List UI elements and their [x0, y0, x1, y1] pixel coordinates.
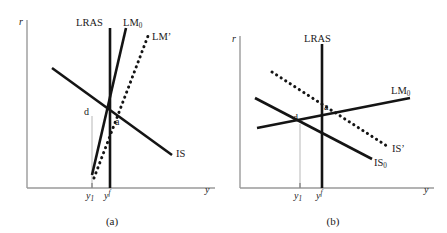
panel-b-y-axis-label: r: [232, 33, 236, 44]
panel-a-tick-label-y1: y1: [85, 190, 94, 203]
panel-b-caption: (b): [327, 215, 340, 228]
panel-b-label-LM0: LM0: [391, 85, 411, 98]
panel-b-point-d: d: [293, 112, 298, 123]
panel-b-label-LRAS: LRAS: [304, 33, 331, 44]
panel-b-tick-label-y1: y1: [293, 190, 302, 203]
panel-a-curve-IS: [52, 68, 172, 155]
panel-a-tick-label-yf: yf: [103, 189, 111, 201]
panel-a-label-LM-prime: LM’: [152, 31, 171, 42]
figure-container: r y y1 yf IS LRAS LM0 LM’ d a (a) r: [0, 0, 447, 233]
panel-b-curve-LM0: [257, 98, 410, 128]
panel-b-tick-label-yf: yf: [315, 189, 323, 201]
panel-a-label-LRAS: LRAS: [76, 17, 103, 28]
panel-b-label-IS0: IS0: [374, 157, 387, 170]
panel-a-point-d: d: [84, 106, 89, 117]
panel-a-label-IS: IS: [176, 148, 185, 159]
panel-a-y-axis-label: r: [19, 16, 23, 27]
panel-b: r y y1 yf LRAS LM0 IS0 IS’ d a (b): [232, 33, 434, 228]
panel-a: r y y1 yf IS LRAS LM0 LM’ d a (a): [19, 16, 215, 228]
panel-b-point-a: a: [324, 101, 329, 112]
panel-b-label-IS-prime: IS’: [392, 143, 405, 154]
panel-a-x-axis-label: y: [204, 184, 210, 195]
panel-a-curve-LM-prime: [94, 36, 148, 178]
islm-figure: r y y1 yf IS LRAS LM0 LM’ d a (a) r: [0, 0, 447, 233]
panel-a-point-a: a: [115, 116, 120, 127]
panel-b-curve-IS0: [255, 98, 372, 159]
panel-a-caption: (a): [106, 215, 119, 228]
panel-b-x-axis-label: y: [423, 184, 429, 195]
